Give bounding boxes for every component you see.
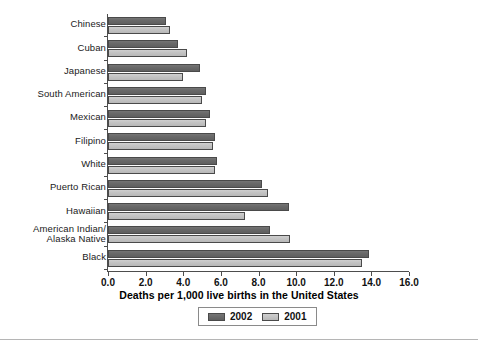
bar-group	[108, 17, 409, 37]
bar-2002[interactable]	[108, 87, 206, 95]
bar-group	[108, 133, 409, 153]
category-label: Cuban	[6, 43, 106, 54]
category-label-line: White	[6, 159, 106, 170]
x-axis-tick-label: 14.0	[351, 277, 391, 288]
category-label: White	[6, 159, 106, 170]
x-axis-tick	[259, 272, 260, 276]
x-axis-tick	[183, 272, 184, 276]
bar-2001[interactable]	[108, 166, 215, 174]
x-axis-tick-label: 10.0	[276, 277, 316, 288]
bar-group	[108, 180, 409, 200]
category-label: Japanese	[6, 66, 106, 77]
x-axis-tick	[221, 272, 222, 276]
x-axis-tick-label: 16.0	[389, 277, 429, 288]
x-axis-tick-label: 12.0	[314, 277, 354, 288]
category-label-line: Black	[6, 252, 106, 263]
bar-2001[interactable]	[108, 49, 187, 57]
x-axis-tick-label: 2.0	[126, 277, 166, 288]
bar-2002[interactable]	[108, 40, 178, 48]
legend-item-2001[interactable]: 2001	[262, 311, 306, 322]
legend-label-2002: 2002	[230, 311, 252, 322]
bar-2002[interactable]	[108, 133, 215, 141]
bar-2002[interactable]	[108, 157, 217, 165]
chart-page: ChineseCubanJapaneseSouth AmericanMexica…	[0, 0, 478, 354]
x-axis-tick	[108, 272, 109, 276]
category-label: Puerto Rican	[6, 182, 106, 193]
bar-2002[interactable]	[108, 203, 289, 211]
bar-2001[interactable]	[108, 189, 268, 197]
category-label-line: Alaska Native	[6, 234, 106, 245]
bar-2001[interactable]	[108, 212, 245, 220]
category-label: Mexican	[6, 112, 106, 123]
x-axis-tick	[334, 272, 335, 276]
bar-2002[interactable]	[108, 110, 210, 118]
bar-group	[108, 226, 409, 246]
bar-2001[interactable]	[108, 96, 202, 104]
bar-2001[interactable]	[108, 26, 170, 34]
category-label: American Indian/Alaska Native	[6, 224, 106, 245]
category-label-line: Cuban	[6, 43, 106, 54]
bar-2001[interactable]	[108, 259, 362, 267]
bar-2002[interactable]	[108, 17, 166, 25]
category-label: South American	[6, 89, 106, 100]
category-label-line: Hawaiian	[6, 206, 106, 217]
bar-group	[108, 250, 409, 270]
legend-swatch-2001	[262, 313, 279, 321]
x-axis-tick	[371, 272, 372, 276]
bar-2002[interactable]	[108, 250, 369, 258]
x-axis-tick-label: 4.0	[163, 277, 203, 288]
bar-group	[108, 203, 409, 223]
bar-group	[108, 157, 409, 177]
legend-label-2001: 2001	[284, 311, 306, 322]
category-label-line: Japanese	[6, 66, 106, 77]
chart-legend: 2002 2001	[198, 307, 317, 326]
category-label: Black	[6, 252, 106, 263]
category-axis-labels: ChineseCubanJapaneseSouth AmericanMexica…	[6, 14, 106, 270]
bar-2001[interactable]	[108, 119, 206, 127]
x-axis-tick-label: 6.0	[201, 277, 241, 288]
bar-2002[interactable]	[108, 226, 270, 234]
bar-2002[interactable]	[108, 180, 262, 188]
x-axis-tick	[146, 272, 147, 276]
category-label-line: South American	[6, 89, 106, 100]
bar-group	[108, 87, 409, 107]
plot-area	[108, 14, 409, 270]
x-axis-title: Deaths per 1,000 live births in the Unit…	[0, 289, 478, 301]
category-label: Chinese	[6, 19, 106, 30]
bar-chart: ChineseCubanJapaneseSouth AmericanMexica…	[0, 0, 478, 300]
category-label: Hawaiian	[6, 206, 106, 217]
category-label-line: Mexican	[6, 112, 106, 123]
category-label-line: Chinese	[6, 19, 106, 30]
category-label-line: Filipino	[6, 136, 106, 147]
category-label: Filipino	[6, 136, 106, 147]
bar-2001[interactable]	[108, 73, 183, 81]
legend-item-2002[interactable]: 2002	[208, 311, 252, 322]
x-axis-tick	[409, 272, 410, 276]
legend-swatch-2002	[208, 313, 225, 321]
category-label-line: Puerto Rican	[6, 182, 106, 193]
bar-group	[108, 64, 409, 84]
x-axis-tick-label: 0.0	[88, 277, 128, 288]
bar-2001[interactable]	[108, 235, 290, 243]
x-axis-tick-label: 8.0	[239, 277, 279, 288]
bar-group	[108, 110, 409, 130]
page-divider	[0, 339, 478, 340]
x-axis-tick	[296, 272, 297, 276]
bar-group	[108, 40, 409, 60]
bar-2001[interactable]	[108, 142, 213, 150]
bar-2002[interactable]	[108, 64, 200, 72]
